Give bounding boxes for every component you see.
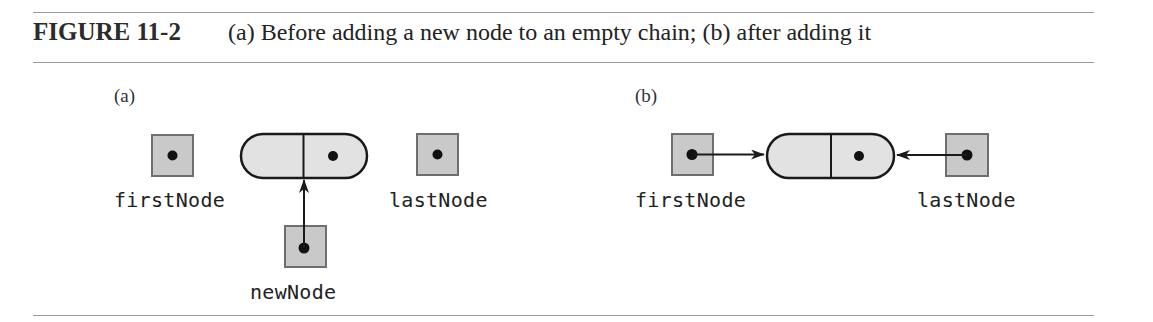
bottom-rule xyxy=(33,315,1094,316)
newnode-reference-box xyxy=(285,180,326,267)
null-pointer-dot-icon xyxy=(433,150,443,160)
firstnode-label: firstNode xyxy=(114,188,225,212)
firstnode-reference-box xyxy=(152,135,193,176)
next-null-dot-icon xyxy=(328,151,338,161)
newnode-label: newNode xyxy=(250,280,336,304)
node-pill xyxy=(241,134,367,178)
lastnode-label: lastNode xyxy=(917,188,1016,212)
next-null-dot-icon xyxy=(854,151,864,161)
firstnode-label: firstNode xyxy=(635,188,746,212)
lastnode-reference-box xyxy=(417,134,458,175)
firstnode-reference-box xyxy=(672,134,764,175)
node-pill xyxy=(767,134,894,178)
panel-b xyxy=(672,134,988,178)
lastnode-reference-box xyxy=(897,134,988,176)
linked-chain-diagram xyxy=(0,0,1153,322)
lastnode-label: lastNode xyxy=(389,188,488,212)
null-pointer-dot-icon xyxy=(168,151,178,161)
